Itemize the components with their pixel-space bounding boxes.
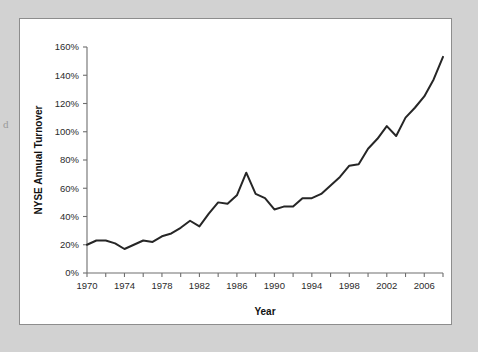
x-tick-label: 2002	[376, 280, 397, 291]
x-axis-tick-labels: 1970197419781982198619901994199820022006	[76, 280, 434, 291]
y-axis: 0%20%40%60%80%100%120%140%160%	[55, 41, 87, 278]
page-bleed-text: d	[3, 118, 9, 130]
x-tick-label: 1982	[189, 280, 210, 291]
y-tick-label: 120%	[55, 98, 80, 109]
y-axis-tick-labels: 0%20%40%60%80%100%120%140%160%	[55, 41, 80, 278]
x-tick-label: 1970	[76, 280, 97, 291]
y-tick-label: 80%	[60, 154, 80, 165]
x-tick-label: 1990	[264, 280, 285, 291]
y-axis-title: NYSE Annual Turnover	[33, 105, 44, 214]
x-tick-label: 1986	[226, 280, 247, 291]
y-tick-label: 140%	[55, 70, 80, 81]
chart-plot-area: 0%20%40%60%80%100%120%140%160% 197019741…	[20, 19, 453, 326]
x-tick-label: 2006	[414, 280, 435, 291]
x-tick-label: 1994	[301, 280, 322, 291]
y-tick-label: 20%	[60, 239, 80, 250]
x-tick-label: 1978	[151, 280, 172, 291]
x-axis: 1970197419781982198619901994199820022006	[76, 273, 443, 291]
y-axis-ticks	[83, 47, 87, 273]
y-tick-label: 160%	[55, 41, 80, 52]
y-tick-label: 100%	[55, 126, 80, 137]
y-tick-label: 60%	[60, 183, 80, 194]
y-tick-label: 0%	[65, 267, 79, 278]
figure-panel: 0%20%40%60%80%100%120%140%160% 197019741…	[19, 18, 452, 325]
x-axis-title: Year	[254, 306, 275, 317]
series-line-nyse-annual-turnover	[87, 57, 443, 249]
x-axis-ticks	[87, 273, 443, 277]
nyse-turnover-line-chart: 0%20%40%60%80%100%120%140%160% 197019741…	[20, 19, 453, 326]
y-tick-label: 40%	[60, 211, 80, 222]
x-tick-label: 1998	[339, 280, 360, 291]
x-tick-label: 1974	[114, 280, 135, 291]
